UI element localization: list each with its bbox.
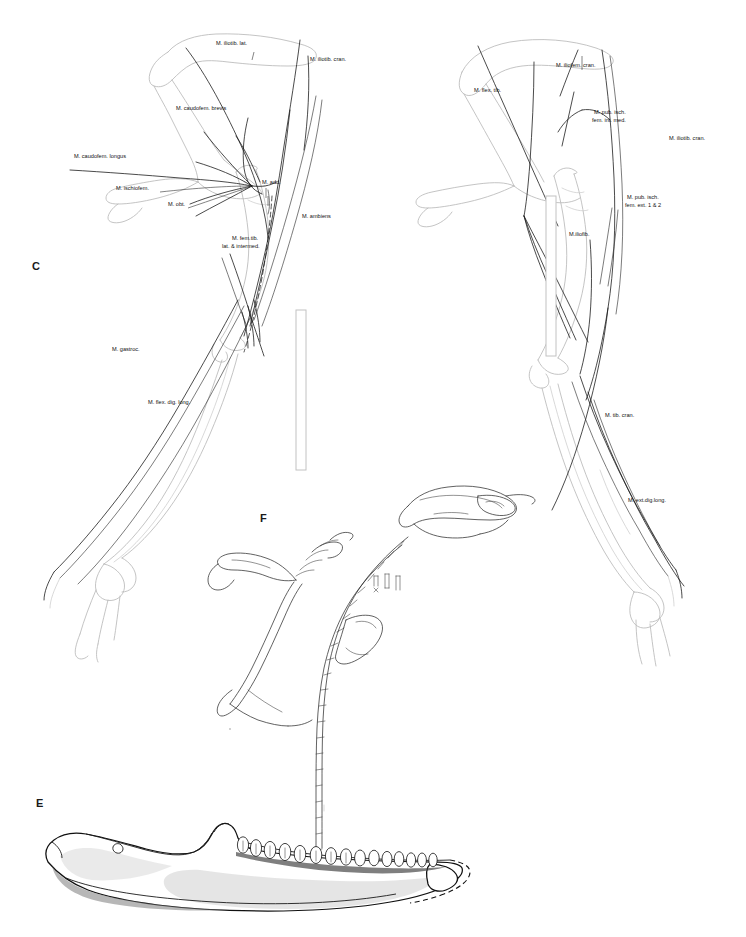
label-obt: M. obt. [168,201,186,207]
figure-canvas: M. iliotib. lat. M. iliotib. cran. M. ca… [0,0,746,937]
label-iliotib-lat: M. iliotib. lat. [216,40,248,46]
panel-e-mandible [46,823,470,911]
label-add: M. add. [262,179,281,185]
panel-d-bones [416,40,670,666]
small-bones-cluster [374,574,400,592]
panel-d-labels: M. iliofem. cran. M. flex. tib. M. pub. … [474,62,706,503]
label-caudofem-brevis: M. caudofem. brevis [176,105,227,111]
label-femtib-line2: lat. & intermed. [222,243,260,249]
label-flex-dig-long: M. flex. dig. long. [148,399,191,405]
label-flex-tib: M. flex. tib. [474,87,501,93]
limb-fragment [335,615,382,664]
label-iliotib-cran: M. iliotib. cran. [310,56,347,62]
label-ambiens: M. ambiens [302,213,331,219]
label-iliotib-cran-right: M. iliotib. cran. [669,135,706,141]
label-pub-isch-ext-line1: M. pub. isch. [627,194,659,200]
panel-letter-f: F [260,512,267,524]
label-ext-dig-long: M. ext.dig.long. [628,497,666,503]
panel-letter-e: E [36,797,43,809]
label-ischiofem: M. ischiofem. [116,185,149,191]
label-iliofem-cran: M. iliofem. cran. [556,62,596,68]
scale-bar-d [546,196,556,356]
label-caudofem-longus: M. caudofem. longus [74,153,126,159]
panel-f-skeleton [208,486,535,852]
figure-plate: M. iliotib. lat. M. iliotib. cran. M. ca… [0,0,746,937]
label-iliofib: M.iliofib. [569,231,590,237]
skull-element [399,486,535,538]
label-tib-cran: M. tib. cran. [605,412,635,418]
vertebral-column [316,537,408,852]
stray-mark [229,728,231,730]
label-femtib-line1: M. fem.tib. [232,235,259,241]
panel-letter-c: C [32,260,40,272]
panel-c-muscles [44,40,322,608]
label-pub-isch-int-line1: M. pub. isch. [594,109,626,115]
label-pub-isch-ext-line2: fem. ext. 1 & 2 [625,202,661,208]
scapulocoracoid [208,532,353,726]
label-pub-isch-int-line2: fem. int. med. [592,117,626,123]
scale-bar-c [296,310,306,470]
panel-d-muscles [478,46,684,606]
label-gastroc: M. gastroc. [112,346,140,352]
